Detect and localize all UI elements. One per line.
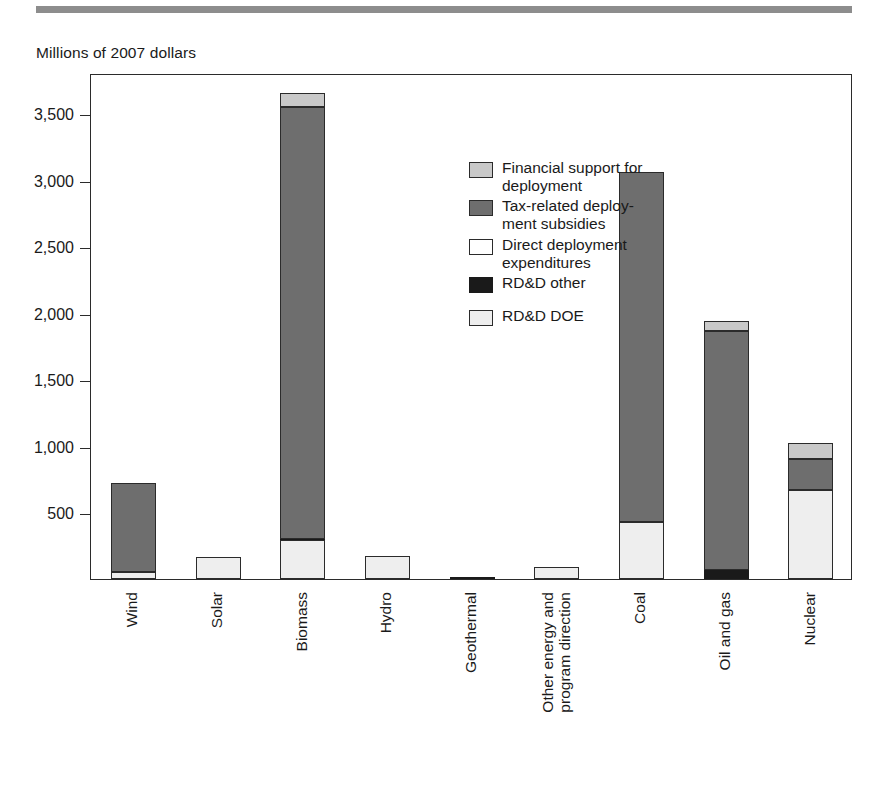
- x-axis-label-solar: Solar: [208, 592, 225, 628]
- plot-area: 5001,0001,5002,0002,5003,0003,500 Financ…: [90, 74, 852, 580]
- y-tick-mark: [80, 182, 91, 183]
- y-tick-mark: [80, 248, 91, 249]
- bar-solar[interactable]: [196, 557, 241, 579]
- x-axis-label-coal: Coal: [632, 592, 649, 624]
- light-gray-square-icon: [469, 162, 493, 178]
- y-tick-label: 3,500: [34, 106, 74, 124]
- x-axis-label-nuclear: Nuclear: [801, 592, 818, 645]
- bar-other-energy-and[interactable]: [534, 567, 579, 579]
- bar-segment-financial: [788, 443, 833, 460]
- bar-nuclear[interactable]: [788, 443, 833, 579]
- legend-item-direct[interactable]: Direct deployment expenditures: [469, 236, 729, 272]
- legend-item-label: Financial support for deployment: [502, 159, 642, 195]
- y-tick-label: 1,500: [34, 372, 74, 390]
- top-rule: [36, 6, 852, 13]
- black-square-icon: [469, 277, 493, 293]
- legend-item-label: RD&D other: [502, 274, 586, 292]
- dark-gray-square-icon: [469, 200, 493, 216]
- bar-oil-and-gas[interactable]: [704, 321, 749, 579]
- legend-item-rdd_other[interactable]: RD&D other: [469, 274, 729, 293]
- bar-segment-rdd_doe: [196, 557, 241, 579]
- y-tick-label: 500: [47, 505, 74, 523]
- bar-wind[interactable]: [111, 483, 156, 579]
- legend-item-label: RD&D DOE: [502, 307, 584, 325]
- legend-item-rdd_doe[interactable]: RD&D DOE: [469, 307, 729, 326]
- legend-item-tax[interactable]: Tax-related deploy- ment subsidies: [469, 197, 729, 233]
- y-tick-mark: [80, 315, 91, 316]
- y-tick-mark: [80, 115, 91, 116]
- bar-segment-rdd_doe: [788, 490, 833, 579]
- x-axis-label-other-energy-and: Other energy and program direction: [538, 592, 573, 713]
- y-tick-mark: [80, 448, 91, 449]
- bar-geothermal[interactable]: [450, 577, 495, 579]
- y-tick-label: 3,000: [34, 173, 74, 191]
- bar-hydro[interactable]: [365, 556, 410, 579]
- y-tick-label: 2,000: [34, 306, 74, 324]
- legend-item-label: Tax-related deploy- ment subsidies: [502, 197, 634, 233]
- bar-segment-tax: [788, 459, 833, 490]
- x-axis-label-wind: Wind: [124, 592, 141, 627]
- legend: Financial support for deploymentTax-rela…: [469, 159, 729, 328]
- very-light-gray-square-icon: [469, 310, 493, 326]
- y-tick-label: 1,000: [34, 439, 74, 457]
- bar-segment-rdd_doe: [534, 567, 579, 579]
- x-axis-label-geothermal: Geothermal: [462, 592, 479, 673]
- bar-segment-financial: [280, 93, 325, 108]
- legend-spacer: [469, 295, 729, 307]
- white-square-icon: [469, 239, 493, 255]
- y-tick-label: 2,500: [34, 239, 74, 257]
- legend-item-financial[interactable]: Financial support for deployment: [469, 159, 729, 195]
- x-axis-label-hydro: Hydro: [378, 592, 395, 633]
- y-axis-title: Millions of 2007 dollars: [36, 44, 196, 62]
- bar-segment-rdd_doe: [280, 540, 325, 579]
- bar-segment-rdd_doe: [619, 522, 664, 579]
- bar-segment-tax: [111, 483, 156, 572]
- bar-segment-tax: [704, 331, 749, 571]
- y-tick-mark: [80, 514, 91, 515]
- bar-segment-rdd_doe: [111, 572, 156, 579]
- y-tick-mark: [80, 381, 91, 382]
- bar-segment-rdd_other: [450, 577, 495, 579]
- x-axis-label-biomass: Biomass: [293, 592, 310, 651]
- x-axis-label-oil-and-gas: Oil and gas: [716, 592, 733, 670]
- bar-segment-tax: [280, 107, 325, 538]
- legend-item-label: Direct deployment expenditures: [502, 236, 627, 272]
- bar-segment-rdd_other: [704, 570, 749, 579]
- bar-biomass[interactable]: [280, 93, 325, 579]
- bar-segment-rdd_doe: [365, 556, 410, 579]
